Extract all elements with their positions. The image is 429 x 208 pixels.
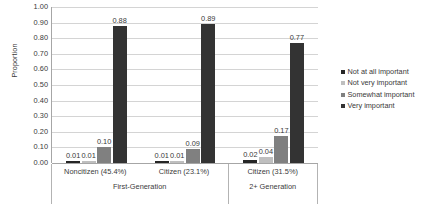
y-axis-tick-label: 0.10 xyxy=(18,143,48,151)
legend-label: Not very important xyxy=(348,79,408,87)
group-separator xyxy=(228,164,229,204)
legend-item[interactable]: Not at all important xyxy=(341,66,429,78)
bar-chart: Proportion 1.000.900.800.700.600.500.400… xyxy=(0,0,429,208)
legend-label: Somewhat important xyxy=(348,91,415,99)
bar[interactable] xyxy=(66,161,80,163)
y-axis-tick-labels: 1.000.900.800.700.600.500.400.300.200.10… xyxy=(18,7,48,163)
plot-area: 0.010.010.100.880.010.010.090.890.020.04… xyxy=(51,7,318,163)
legend-swatch-icon xyxy=(341,70,345,74)
bar-cluster: 0.010.010.100.88 xyxy=(52,7,141,163)
y-axis-tick-label: 0.40 xyxy=(18,97,48,105)
bar-cluster: 0.020.040.170.77 xyxy=(229,7,318,163)
legend-swatch-icon xyxy=(341,93,345,97)
x-axis-category-label: Citizen (31.5%) xyxy=(228,167,317,176)
x-axis-group-label: First-Generation xyxy=(51,182,228,191)
x-axis-category-label: Noncitizen (45.4%) xyxy=(51,167,140,176)
x-axis: Noncitizen (45.4%)Citizen (23.1%)First-G… xyxy=(51,164,318,208)
bar-value-label: 0.88 xyxy=(109,17,131,25)
bar[interactable] xyxy=(113,26,127,163)
bar-value-label: 0.77 xyxy=(286,34,308,42)
y-axis-tick-label: 0.60 xyxy=(18,65,48,73)
y-axis-tick-label: 0.80 xyxy=(18,34,48,42)
bar[interactable] xyxy=(201,24,215,163)
y-axis-tick-label: 0.00 xyxy=(18,159,48,167)
group-separator xyxy=(317,164,318,204)
bar-cluster: 0.010.010.090.89 xyxy=(141,7,230,163)
bars-layer: 0.010.010.100.880.010.010.090.890.020.04… xyxy=(52,7,318,163)
legend-swatch-icon xyxy=(341,81,345,85)
y-axis-tick-label: 0.30 xyxy=(18,112,48,120)
legend-item[interactable]: Not very important xyxy=(341,78,429,90)
legend-label: Very important xyxy=(348,102,395,110)
bar[interactable] xyxy=(186,149,200,163)
legend-item[interactable]: Somewhat important xyxy=(341,89,429,101)
legend-swatch-icon xyxy=(341,104,345,108)
chart-legend: Not at all importantNot very importantSo… xyxy=(341,66,429,112)
y-axis-tick-label: 0.20 xyxy=(18,128,48,136)
y-axis-tick-label: 0.70 xyxy=(18,50,48,58)
bar[interactable] xyxy=(290,43,304,163)
y-axis-tick-label: 1.00 xyxy=(18,3,48,11)
bar[interactable] xyxy=(155,161,169,163)
bar[interactable] xyxy=(243,160,257,163)
bar[interactable] xyxy=(274,136,288,163)
x-axis-group-label: 2+ Generation xyxy=(228,182,317,191)
bar[interactable] xyxy=(259,157,273,163)
bar[interactable] xyxy=(97,147,111,163)
bar[interactable] xyxy=(170,161,184,163)
y-axis-tick-label: 0.90 xyxy=(18,19,48,27)
x-axis-category-label: Citizen (23.1%) xyxy=(140,167,229,176)
y-axis-tick-label: 0.50 xyxy=(18,81,48,89)
legend-item[interactable]: Very important xyxy=(341,101,429,113)
legend-label: Not at all important xyxy=(348,68,409,76)
bar-value-label: 0.89 xyxy=(197,15,219,23)
group-separator xyxy=(51,164,52,204)
bar[interactable] xyxy=(82,161,96,163)
